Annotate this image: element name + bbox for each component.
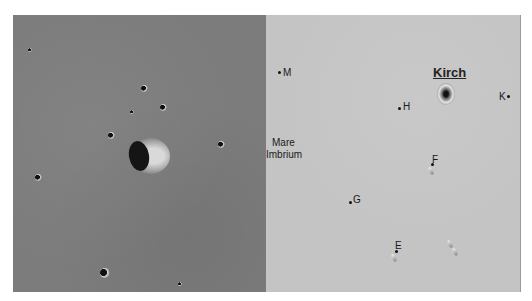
small-crater: [35, 174, 42, 181]
small-crater: [108, 132, 115, 139]
crater-streak: [451, 248, 458, 257]
small-crater: [130, 110, 134, 114]
small-crater: [160, 104, 167, 111]
right-lunar-map: Mare Imbrium Kirch M H K F G E: [266, 15, 521, 292]
marker-e: [395, 250, 398, 253]
small-crater: [178, 282, 182, 286]
label-k: K: [499, 91, 506, 102]
crater-streak: [390, 254, 397, 263]
left-lunar-photo: [13, 15, 266, 292]
label-g: G: [353, 194, 361, 205]
small-crater: [100, 268, 110, 278]
small-crater: [28, 48, 32, 52]
label-m: M: [283, 67, 291, 78]
marker-f: [431, 163, 434, 166]
kirch-label: Kirch: [433, 65, 466, 80]
marker-m: [278, 71, 281, 74]
label-h: H: [403, 101, 410, 112]
crater-streak: [427, 167, 434, 176]
mare-label-line1: Mare: [272, 137, 295, 148]
kirch-crater: [437, 83, 455, 105]
marker-h: [398, 107, 401, 110]
crater-streak: [446, 240, 453, 249]
mare-label-line2: Imbrium: [266, 149, 302, 160]
small-crater: [141, 85, 148, 92]
marker-g: [349, 201, 352, 204]
small-crater: [218, 141, 225, 148]
marker-k: [507, 95, 510, 98]
